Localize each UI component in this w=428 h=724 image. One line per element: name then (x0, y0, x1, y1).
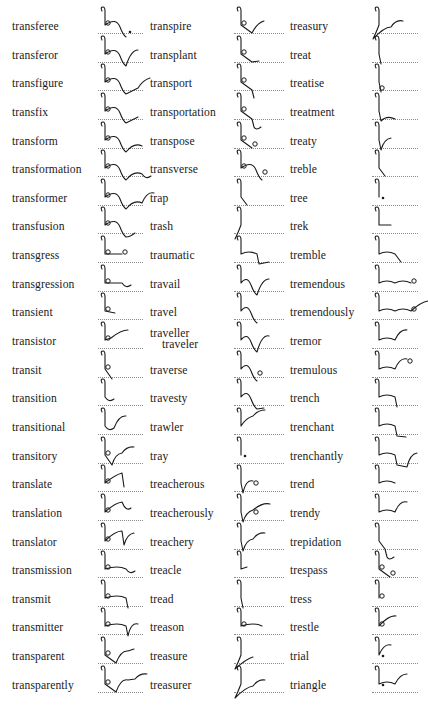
entry-word-text: treatment (290, 106, 335, 119)
entry-word-text: transfigure (12, 77, 63, 90)
entry-word-text: transistor (12, 335, 56, 348)
entry-word: travel (150, 306, 177, 319)
entry-word: tray (150, 450, 168, 463)
entry-word-text: tread (150, 593, 174, 606)
entry-word: transverse (150, 163, 198, 176)
entry-word-text: triangle (290, 679, 326, 692)
entry-word-text: trap (150, 192, 168, 205)
entry-word: transparently (12, 679, 74, 692)
entry-word: trepidation (290, 536, 341, 549)
entry-word-text: treacherous (150, 478, 205, 491)
entry-word: tremble (290, 249, 326, 262)
column-1: transferee transferor transfigure transf… (12, 13, 147, 700)
entry-word: treaty (290, 135, 317, 148)
entry-word: trenchantly (290, 450, 343, 463)
entry-word-text: transfusion (12, 220, 65, 233)
entry-word-text: transgress (12, 249, 59, 262)
entry-word-text: transportation (150, 106, 216, 119)
entry-word-text: transgression (12, 278, 74, 291)
entry-word: trap (150, 192, 168, 205)
entry-word: trend (290, 478, 314, 491)
entry-word: travellertraveler (150, 328, 198, 350)
entry-word: transgression (12, 278, 74, 291)
shorthand-outline-icon (96, 664, 148, 706)
entry-word: trench (290, 392, 320, 405)
entry-word-text: transparent (12, 650, 65, 663)
entry-word-text: trespass (290, 564, 328, 577)
entry-word-text: tremor (290, 335, 322, 348)
entry-word: treat (290, 49, 311, 62)
entry-word: trendy (290, 507, 320, 520)
column-3: treasury treat treatise treatment treaty… (290, 13, 420, 700)
entry-word-text: treat (290, 49, 311, 62)
entry-word-text: trench (290, 392, 320, 405)
entry-word-text: transmitter (12, 621, 63, 634)
entry-word: traumatic (150, 249, 195, 262)
entry-word: treatise (290, 77, 324, 90)
entry-word-text: treacle (150, 564, 182, 577)
dictionary-entry: triangle (290, 672, 420, 701)
entry-word-text: treachery (150, 536, 194, 549)
entry-word: tremendous (290, 278, 345, 291)
entry-word-text: travesty (150, 392, 188, 405)
dictionary-entry: transparently (12, 672, 147, 701)
entry-word-text: transpire (150, 20, 191, 33)
entry-word: transitory (12, 450, 57, 463)
entry-word-text: treasure (150, 650, 188, 663)
entry-word: travesty (150, 392, 188, 405)
entry-word-text: trenchantly (290, 450, 343, 463)
entry-word-text: translate (12, 478, 52, 491)
entry-word: triangle (290, 679, 326, 692)
entry-word-text: trestle (290, 621, 319, 634)
entry-word-text: tremulous (290, 364, 337, 377)
entry-alt-spelling: traveler (150, 339, 198, 350)
entry-word: treacle (150, 564, 182, 577)
entry-word: treachery (150, 536, 194, 549)
entry-word-text: transit (12, 364, 42, 377)
entry-word-text: translator (12, 536, 57, 549)
entry-word: trespass (290, 564, 328, 577)
entry-word: trestle (290, 621, 319, 634)
entry-word-text: transform (12, 135, 58, 148)
entry-word: transmitter (12, 621, 63, 634)
entry-word: tree (290, 192, 308, 205)
entry-word-text: travel (150, 306, 177, 319)
entry-word: transformer (12, 192, 67, 205)
entry-word-text: transmit (12, 593, 51, 606)
entry-word: treatment (290, 106, 335, 119)
entry-word: transfusion (12, 220, 65, 233)
entry-word: treasurer (150, 679, 191, 692)
entry-word-text: transitional (12, 421, 65, 434)
entry-word: treasury (290, 20, 328, 33)
entry-word: trawler (150, 421, 184, 434)
entry-word: transient (12, 306, 53, 319)
entry-word: trial (290, 650, 309, 663)
entry-word-text: tremendously (290, 306, 354, 319)
entry-word-text: treason (150, 621, 184, 634)
entry-word: transpire (150, 20, 191, 33)
entry-word: tread (150, 593, 174, 606)
dictionary-entry: treasurer (150, 672, 290, 701)
entry-word-text: trial (290, 650, 309, 663)
entry-word: trash (150, 220, 173, 233)
entry-word: traverse (150, 364, 188, 377)
entry-word: transform (12, 135, 58, 148)
entry-word: treason (150, 621, 184, 634)
entry-word-text: treaty (290, 135, 317, 148)
entry-word-text: trash (150, 220, 173, 233)
entry-word: transitional (12, 421, 65, 434)
entry-word-text: transfix (12, 106, 48, 119)
entry-word: transparent (12, 650, 65, 663)
entry-word: transport (150, 77, 192, 90)
entry-word: treasure (150, 650, 188, 663)
entry-word-text: treacherously (150, 507, 214, 520)
entry-word-text: traumatic (150, 249, 195, 262)
entry-word-text: tress (290, 593, 312, 606)
entry-word: treacherously (150, 507, 214, 520)
entry-word-text: transparently (12, 679, 74, 692)
entry-word-text: translation (12, 507, 62, 520)
entry-word-text: transport (150, 77, 192, 90)
entry-word-text: treasury (290, 20, 328, 33)
entry-word: transferee (12, 20, 59, 33)
entry-word-text: tray (150, 450, 168, 463)
